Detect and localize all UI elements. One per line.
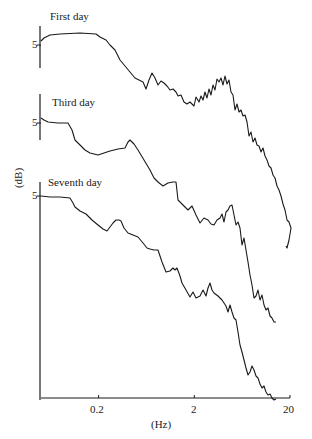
x-axis-label: (Hz): [151, 419, 171, 430]
spectrum-chart: [0, 0, 312, 439]
x-tick-label-20: 20: [283, 404, 294, 415]
y-tick-label-first: 5: [32, 39, 38, 50]
series-label-third-day: Third day: [52, 97, 95, 108]
series-label-first-day: First day: [50, 11, 89, 22]
x-tick-label-2: 2: [191, 404, 197, 415]
trace-third-day: [41, 118, 276, 322]
y-tick-label-third: 5: [32, 117, 38, 128]
trace-first-day: [41, 33, 291, 248]
trace-seventh-day: [41, 196, 276, 400]
x-tick-label-0-2: 0.2: [90, 404, 104, 415]
traces: [41, 33, 291, 400]
y-axis-label: (dB): [12, 168, 24, 188]
y-tick-label-seventh: 5: [32, 190, 38, 201]
series-label-seventh-day: Seventh day: [48, 177, 102, 188]
